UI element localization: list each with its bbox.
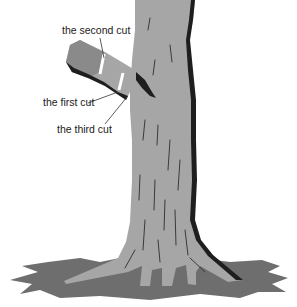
first-cut-label: the first cut — [43, 96, 94, 108]
second-cut-label: the second cut — [62, 24, 130, 36]
third-cut-leader — [105, 97, 127, 124]
third-cut-label: the third cut — [57, 123, 112, 135]
tree-pruning-diagram: the second cut the first cut the third c… — [0, 0, 297, 307]
branch-stub — [66, 40, 103, 78]
tree-trunk — [64, 0, 242, 286]
